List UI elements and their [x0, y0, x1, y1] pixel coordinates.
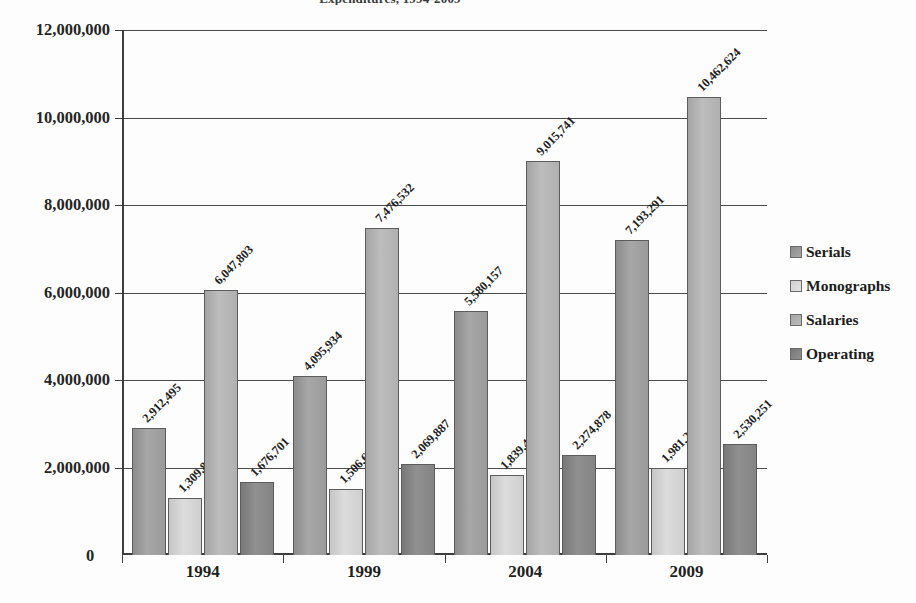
bar[interactable]: 1,981,284 — [651, 468, 685, 555]
y-tick-mark — [115, 205, 122, 206]
legend-label: Monographs — [806, 277, 890, 295]
x-tick-label: 1994 — [122, 562, 283, 582]
bar-value-label: 2,530,251 — [731, 397, 776, 442]
bar-value-label: 9,015,741 — [534, 113, 579, 158]
y-tick-label: 6,000,000 — [0, 283, 118, 303]
bar-value-label: 2,912,495 — [139, 380, 184, 425]
x-tick-mark — [445, 555, 446, 563]
legend-item[interactable]: Monographs — [790, 277, 916, 295]
legend-swatch-icon — [790, 280, 802, 292]
bar-group: 2,912,4951,309,8076,047,8031,676,701 — [122, 30, 283, 555]
y-tick-mark — [115, 293, 122, 294]
bar-groups: 2,912,4951,309,8076,047,8031,676,7014,09… — [122, 30, 767, 555]
bar-value-label: 7,193,291 — [623, 193, 668, 238]
bar[interactable]: 1,506,651 — [329, 489, 363, 555]
plot-area: 2,912,4951,309,8076,047,8031,676,7014,09… — [122, 30, 767, 555]
bar-value-label: 10,462,624 — [695, 46, 745, 96]
x-tick-label: 1999 — [283, 562, 444, 582]
x-tick-mark — [122, 555, 123, 563]
chart-legend: SerialsMonographsSalariesOperating — [790, 243, 916, 379]
y-tick-label: 10,000,000 — [0, 108, 118, 128]
bar[interactable]: 1,839,412 — [490, 475, 524, 555]
bar[interactable]: 5,580,157 — [454, 311, 488, 555]
bar-group: 5,580,1571,839,4129,015,7412,274,878 — [445, 30, 606, 555]
bar[interactable]: 1,309,807 — [168, 498, 202, 555]
legend-item[interactable]: Operating — [790, 345, 916, 363]
x-tick-label: 2004 — [445, 562, 606, 582]
y-tick-mark — [115, 380, 122, 381]
y-tick-mark — [115, 468, 122, 469]
bar[interactable]: 2,069,887 — [401, 464, 435, 555]
legend-item[interactable]: Salaries — [790, 311, 916, 329]
legend-label: Salaries — [806, 311, 859, 329]
bar-value-label: 6,047,803 — [211, 243, 256, 288]
legend-swatch-icon — [790, 348, 802, 360]
legend-swatch-icon — [790, 246, 802, 258]
chart-title: Expenditures, 1994-2009 — [0, 0, 780, 5]
bar-value-label: 7,476,532 — [372, 181, 417, 226]
bar[interactable]: 2,530,251 — [723, 444, 757, 555]
bar[interactable]: 2,912,495 — [132, 428, 166, 555]
y-tick-label: 4,000,000 — [0, 370, 118, 390]
bar[interactable]: 2,274,878 — [562, 455, 596, 555]
y-axis-zero-label: 0 — [86, 546, 94, 566]
bar-value-label: 4,095,934 — [300, 328, 345, 373]
y-tick-mark — [115, 118, 122, 119]
legend-item[interactable]: Serials — [790, 243, 916, 261]
bar-group: 7,193,2911,981,28410,462,6242,530,251 — [606, 30, 767, 555]
x-tick-label: 2009 — [606, 562, 767, 582]
x-tick-mark — [283, 555, 284, 563]
bar[interactable]: 7,193,291 — [615, 240, 649, 555]
x-tick-mark — [606, 555, 607, 563]
y-tick-label: 12,000,000 — [0, 20, 118, 40]
bar[interactable]: 10,462,624 — [687, 97, 721, 555]
chart-page: Expenditures, 1994-2009 2,000,0004,000,0… — [0, 0, 916, 603]
bar-value-label: 5,580,157 — [462, 264, 507, 309]
bar[interactable]: 9,015,741 — [526, 161, 560, 555]
bar-group: 4,095,9341,506,6517,476,5322,069,887 — [283, 30, 444, 555]
legend-swatch-icon — [790, 314, 802, 326]
bar[interactable]: 7,476,532 — [365, 228, 399, 555]
legend-label: Operating — [806, 345, 874, 363]
legend-label: Serials — [806, 243, 851, 261]
bar[interactable]: 6,047,803 — [204, 290, 238, 555]
y-tick-label: 8,000,000 — [0, 195, 118, 215]
y-tick-label: 2,000,000 — [0, 458, 118, 478]
y-tick-mark — [115, 30, 122, 31]
bar[interactable]: 4,095,934 — [293, 376, 327, 555]
x-axis-tick-labels: 1994199920042009 — [122, 562, 767, 582]
x-tick-mark — [767, 555, 768, 563]
bar[interactable]: 1,676,701 — [240, 482, 274, 555]
